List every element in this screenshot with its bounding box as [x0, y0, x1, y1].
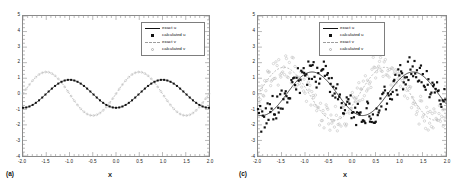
legend-label: exact u — [340, 26, 354, 30]
x-tick-label: 0.0 — [340, 160, 364, 165]
y-tick-label: 4 — [0, 28, 20, 33]
legend-open-circle-icon — [144, 46, 161, 53]
legend-label: exact u — [162, 26, 176, 30]
x-axis-title-c: X — [343, 172, 347, 178]
legend-item: calculated v — [322, 46, 381, 53]
y-tick-label: -3 — [235, 139, 255, 144]
y-tick-label: -2 — [235, 123, 255, 128]
y-tick-label: 5 — [235, 13, 255, 18]
x-axis-title-a: X — [108, 172, 112, 178]
x-tick-label: 2.0 — [198, 160, 222, 165]
figure-two-panel: -4-3-2-1012345 -2.0-1.5-1.0-0.50.00.51.0… — [0, 0, 466, 193]
legend-solid-line-icon — [144, 25, 161, 32]
y-tick-label: -4 — [0, 155, 20, 160]
y-tick-label: -1 — [0, 107, 20, 112]
x-tick-label: 1.0 — [151, 160, 175, 165]
legend-dashed-line-icon — [322, 39, 339, 46]
y-tick-label: -3 — [0, 139, 20, 144]
y-tick-label: 5 — [0, 13, 20, 18]
legend-solid-line-icon — [322, 25, 339, 32]
x-tick-label: -1.5 — [269, 160, 293, 165]
x-tick-label: -1.0 — [57, 160, 81, 165]
x-tick-label: -1.0 — [293, 160, 317, 165]
legend-item: exact v — [144, 39, 201, 46]
legend-open-circle-icon — [322, 46, 339, 53]
x-tick-label: 1.5 — [175, 160, 199, 165]
panel-label-a: (a) — [6, 170, 14, 177]
y-tick-label: 4 — [235, 28, 255, 33]
legend-item: calculated u — [144, 32, 201, 39]
panel-a: -4-3-2-1012345 -2.0-1.5-1.0-0.50.00.51.0… — [0, 0, 233, 193]
legend-c: exact ucalculated uexact vcalculated v — [319, 22, 385, 56]
x-tick-label: 0.0 — [104, 160, 128, 165]
y-tick-label: -1 — [235, 107, 255, 112]
panel-label-c: (c) — [239, 170, 247, 177]
y-tick-label: 1 — [0, 76, 20, 81]
x-tick-label: 2.0 — [435, 160, 459, 165]
legend-filled-square-icon — [322, 32, 339, 39]
x-tick-label: -0.5 — [316, 160, 340, 165]
legend-label: exact v — [340, 40, 354, 44]
x-tick-label: -0.5 — [81, 160, 105, 165]
legend-label: exact v — [162, 40, 176, 44]
legend-dashed-line-icon — [144, 39, 161, 46]
x-tick-label: -2.0 — [10, 160, 34, 165]
x-tick-label: 0.5 — [364, 160, 388, 165]
y-tick-label: 1 — [235, 76, 255, 81]
y-tick-label: -4 — [235, 155, 255, 160]
legend-item: calculated u — [322, 32, 381, 39]
y-tick-label: 0 — [235, 92, 255, 97]
x-tick-label: 1.5 — [411, 160, 435, 165]
legend-filled-square-icon — [144, 32, 161, 39]
legend-label: calculated u — [162, 33, 185, 37]
x-tick-label: 0.5 — [128, 160, 152, 165]
y-tick-label: 3 — [235, 44, 255, 49]
legend-item: exact u — [322, 25, 381, 32]
legend-a: exact ucalculated uexact vcalculated v — [141, 22, 205, 56]
y-tick-label: 2 — [0, 60, 20, 65]
x-tick-label: -2.0 — [245, 160, 269, 165]
x-tick-label: 1.0 — [388, 160, 412, 165]
legend-label: calculated v — [340, 47, 363, 51]
y-tick-label: 2 — [235, 60, 255, 65]
y-tick-label: 0 — [0, 92, 20, 97]
y-tick-label: -2 — [0, 123, 20, 128]
legend-label: calculated v — [162, 47, 185, 51]
legend-item: calculated v — [144, 46, 201, 53]
x-tick-label: -1.5 — [34, 160, 58, 165]
panel-c: -4-3-2-1012345 -2.0-1.5-1.0-0.50.00.51.0… — [233, 0, 466, 193]
legend-item: exact u — [144, 25, 201, 32]
legend-label: calculated u — [340, 33, 363, 37]
legend-item: exact v — [322, 39, 381, 46]
y-tick-label: 3 — [0, 44, 20, 49]
